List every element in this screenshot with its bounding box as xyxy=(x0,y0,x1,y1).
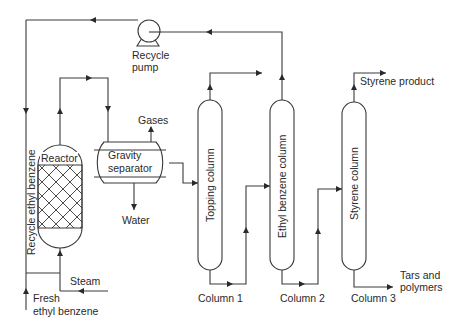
label-water: Water xyxy=(122,214,150,226)
label-reactor: Reactor xyxy=(41,152,78,164)
label-ethyl-benzene-column: Ethyl benzene column xyxy=(276,135,288,238)
label-gravity-1: Gravity xyxy=(108,149,142,161)
process-flow-diagram: Recycle pump Recycle ethyl benzene React… xyxy=(0,0,463,332)
label-topping-column: Topping column xyxy=(204,148,216,222)
recycle-pump: Recycle pump xyxy=(132,20,170,73)
label-styrene-column: Styrene column xyxy=(348,147,360,220)
label-column-1: Column 1 xyxy=(198,292,243,304)
label-gases: Gases xyxy=(138,114,168,126)
reactor-feed-lines: Steam Fresh ethyl benzene xyxy=(23,248,108,317)
gravity-separator: Gravity separator Gases Water xyxy=(94,114,198,226)
label-recycle-pump-2: pump xyxy=(132,61,158,73)
label-column-3: Column 3 xyxy=(351,292,396,304)
ethyl-benzene-column: Ethyl benzene column Column 2 xyxy=(270,74,342,304)
label-tars-1: Tars and xyxy=(400,269,440,281)
label-recycle-ethyl-benzene: Recycle ethyl benzene xyxy=(25,149,37,255)
label-steam: Steam xyxy=(70,275,101,287)
label-fresh-eb-2: ethyl benzene xyxy=(33,305,99,317)
reactor: Reactor xyxy=(38,145,82,248)
label-tars-2: polymers xyxy=(400,281,443,293)
styrene-column: Styrene column Styrene product Tars and … xyxy=(342,70,443,304)
topping-column: Topping column Column 1 xyxy=(198,70,270,304)
label-recycle-pump-1: Recycle xyxy=(132,49,170,61)
label-fresh-eb-1: Fresh xyxy=(33,292,60,304)
label-styrene-product: Styrene product xyxy=(360,75,434,87)
reactor-outlet-line xyxy=(57,75,111,145)
label-gravity-2: separator xyxy=(108,162,153,174)
label-column-2: Column 2 xyxy=(280,292,325,304)
